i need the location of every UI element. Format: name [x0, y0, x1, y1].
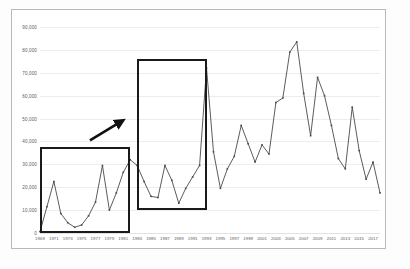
- x-tick-label-1987: 1987: [160, 236, 170, 241]
- x-tick-label-1989: 1989: [174, 236, 184, 241]
- x-tick-label-1969: 1969: [35, 236, 45, 241]
- x-tick-label-1971: 1971: [49, 236, 59, 241]
- y-tick-label-90000: 90,000: [0, 25, 37, 30]
- x-tick-label-2011: 2011: [327, 236, 336, 241]
- y-tick-label-0: 0: [0, 231, 37, 236]
- x-tick-label-2007: 2007: [299, 236, 309, 241]
- x-tick-label-2005: 2005: [285, 236, 295, 241]
- x-tick-label-1977: 1977: [91, 236, 101, 241]
- x-tick-label-1997: 1997: [229, 236, 239, 241]
- y-tick-label-50000: 50,000: [0, 116, 37, 121]
- x-tick-label-1981: 1981: [118, 236, 128, 241]
- x-tick-label-1995: 1995: [216, 236, 226, 241]
- chart-plot-area: 010,00020,00030,00040,00050,00060,00070,…: [40, 27, 380, 233]
- x-tick-label-2009: 2009: [313, 236, 323, 241]
- x-axis-labels: 1969197119731975197719791981198319851987…: [40, 236, 380, 246]
- x-tick-label-2001: 2001: [257, 236, 267, 241]
- x-tick-label-1993: 1993: [202, 236, 212, 241]
- x-tick-label-1973: 1973: [63, 236, 73, 241]
- x-tick-label-1975: 1975: [77, 236, 87, 241]
- emphasis-arrow: [40, 27, 380, 233]
- y-tick-label-70000: 70,000: [0, 70, 37, 75]
- x-tick-label-2015: 2015: [354, 236, 364, 241]
- y-tick-label-60000: 60,000: [0, 93, 37, 98]
- x-tick-label-2003: 2003: [271, 236, 281, 241]
- y-tick-label-30000: 30,000: [0, 162, 37, 167]
- x-tick-label-1991: 1991: [188, 236, 198, 241]
- x-tick-label-2013: 2013: [340, 236, 350, 241]
- document-page: 010,00020,00030,00040,00050,00060,00070,…: [0, 0, 410, 269]
- y-tick-label-80000: 80,000: [0, 47, 37, 52]
- x-tick-label-1983: 1983: [132, 236, 142, 241]
- x-tick-label-1979: 1979: [104, 236, 114, 241]
- x-tick-label-1999: 1999: [243, 236, 253, 241]
- arrow-shaft: [90, 122, 121, 140]
- x-tick-label-2017: 2017: [368, 236, 378, 241]
- y-tick-label-10000: 10,000: [0, 208, 37, 213]
- y-tick-label-20000: 20,000: [0, 185, 37, 190]
- gridline-0: [40, 233, 380, 234]
- y-tick-label-40000: 40,000: [0, 139, 37, 144]
- x-tick-label-1985: 1985: [146, 236, 156, 241]
